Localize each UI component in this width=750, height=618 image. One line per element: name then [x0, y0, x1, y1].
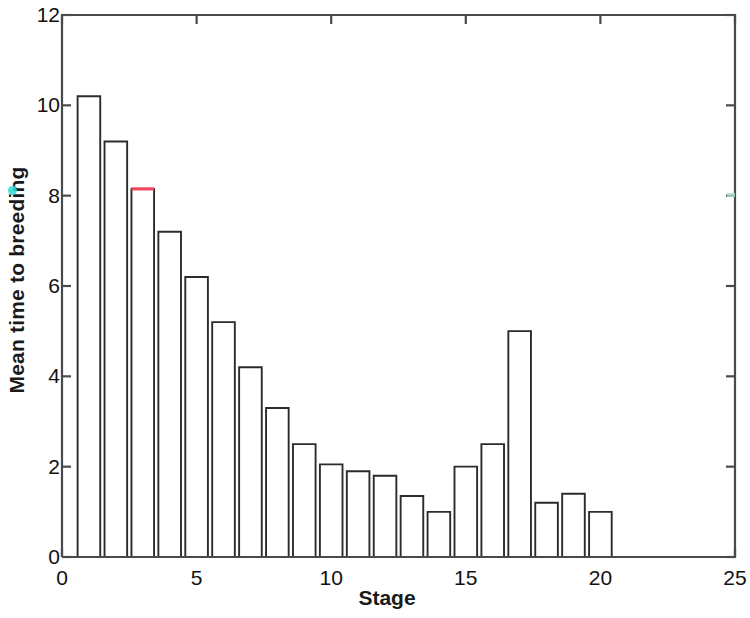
x-axis-label: Stage: [358, 586, 415, 609]
y-tick-label-10: 10: [28, 93, 60, 117]
bar-stage-10: [320, 464, 343, 557]
bar-stage-9: [293, 444, 316, 557]
bar-stage-19: [562, 494, 585, 557]
bar-stage-13: [401, 496, 424, 557]
y-tick-label-8: 8: [28, 184, 60, 208]
bar-stage-3: [131, 189, 154, 557]
x-axis-label-container: Stage: [0, 586, 750, 610]
bar-stage-2: [105, 141, 128, 557]
plot-area: [0, 0, 750, 618]
bar-stage-5: [185, 277, 208, 557]
bar-stage-17: [508, 331, 531, 557]
bar-stage-4: [158, 232, 181, 557]
bar-stage-15: [454, 467, 477, 557]
scan-artifact-edge-icon: [727, 193, 735, 197]
bar-stage-12: [374, 476, 397, 557]
bar-stage-16: [481, 444, 504, 557]
bar-stage-11: [347, 471, 370, 557]
bar-stage-1: [78, 96, 101, 557]
bar-stage-18: [535, 503, 558, 557]
bar-stage-7: [239, 367, 262, 557]
bar-stage-20: [589, 512, 612, 557]
y-tick-label-2: 2: [28, 455, 60, 479]
y-tick-label-4: 4: [28, 364, 60, 388]
scan-artifact-cyan-icon: [8, 186, 17, 195]
bar-stage-8: [266, 408, 289, 557]
y-axis-tick-labels: 024681012: [0, 0, 60, 618]
bar-stage-14: [428, 512, 451, 557]
y-tick-label-6: 6: [28, 274, 60, 298]
bar-stage-6: [212, 322, 235, 557]
bar-chart-figure: Mean time to breeding 024681012 05101520…: [0, 0, 750, 618]
y-tick-label-12: 12: [28, 3, 60, 27]
